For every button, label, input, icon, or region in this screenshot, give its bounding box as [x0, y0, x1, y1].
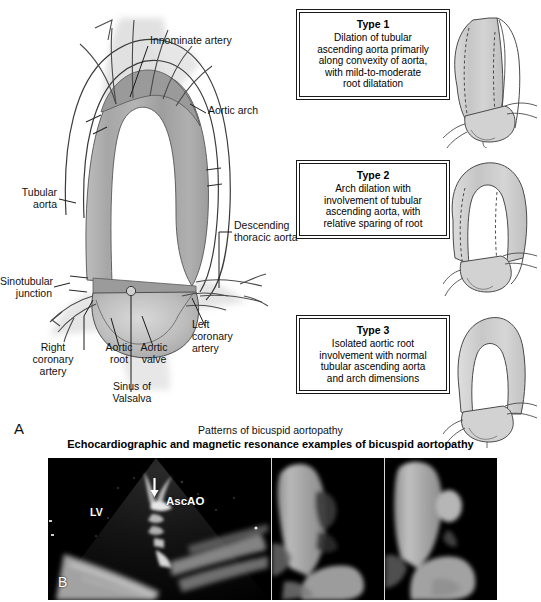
type2-descending-limb — [511, 258, 523, 284]
panel-b-letter: B — [58, 574, 67, 590]
type-1-body: Dilation of tubular ascending aorta prim… — [306, 32, 440, 90]
type2-aortic-root-normal — [460, 256, 511, 292]
mr2-pulmonary-artery — [436, 490, 462, 522]
caption-patterns-of-bicuspid-aortopathy: Patterns of bicuspid aortopathy — [0, 424, 541, 436]
label-innominate-artery: Innominate artery — [150, 34, 232, 46]
type-1-aorta-illustration — [443, 8, 539, 148]
type-3-body: Isolated aortic root involvement with no… — [306, 338, 440, 384]
label-descending-thoracic-aorta: Descending thoracic aorta — [234, 219, 298, 243]
mr-image-2 — [384, 458, 497, 600]
type3-normal-ascending-and-arch — [458, 318, 525, 416]
label-tubular-aorta: Tubular aorta — [0, 186, 57, 210]
label-aortic-arch: Aortic arch — [208, 104, 258, 116]
echo-label-ascao: AscAO — [166, 495, 204, 507]
type-2-title: Type 2 — [306, 169, 440, 182]
label-left-coronary-artery: Left coronary artery — [192, 318, 252, 354]
sinotubular-junction-bracket — [69, 276, 88, 292]
echo-sector-rendering — [48, 458, 271, 600]
label-sinotubular-junction: Sinotubular junction — [0, 275, 52, 299]
panel-b-image-strip: LV AscAO B — [48, 458, 497, 600]
caption-echocardiographic-mr-examples: Echocardiographic and magnetic resonance… — [0, 438, 541, 450]
mr2-rendering — [385, 458, 497, 600]
mr1-rendering — [272, 458, 384, 600]
label-sinus-of-valsalva: Sinus of Valsalva — [101, 380, 163, 404]
mr-image-1 — [271, 458, 384, 600]
label-aortic-valve: Aortic valve — [127, 341, 181, 365]
type2-normal-contour-dashed-right — [496, 192, 498, 262]
type-3-box: Type 3 Isolated aortic root involvement … — [299, 318, 447, 391]
type-1-title: Type 1 — [306, 18, 440, 31]
type-3-title: Type 3 — [306, 324, 440, 337]
type-2-body: Arch dilation with involvement of tubula… — [306, 183, 440, 229]
label-right-coronary-artery: Right coronary artery — [22, 341, 84, 377]
aortic-valve-marker — [126, 286, 135, 295]
echo-label-lv: LV — [90, 506, 103, 518]
echo-marker-dot — [254, 526, 257, 529]
type2-dilated-arch-and-ascending — [452, 163, 527, 264]
echocardiogram-image: LV AscAO B — [48, 458, 271, 600]
arrow-icon — [150, 478, 159, 498]
type-2-box: Type 2 Arch dilation with involvement of… — [299, 163, 447, 236]
type-2-aorta-illustration — [443, 158, 539, 298]
type-1-box: Type 1 Dilation of tubular ascending aor… — [299, 12, 447, 97]
anatomy-diagram-panel: Innominate artery Aortic arch Tubular ao… — [0, 0, 300, 418]
